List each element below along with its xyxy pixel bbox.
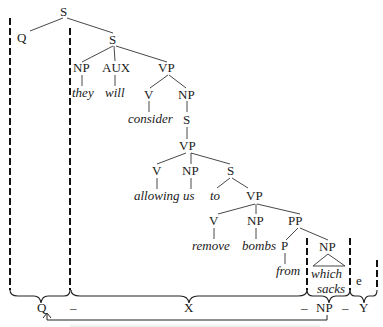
word-bombs: bombs (242, 238, 276, 253)
node-vp-1: VP (158, 60, 175, 75)
node-q: Q (17, 30, 27, 45)
analysis-dash-3: – (341, 300, 349, 315)
node-vp-3: VP (246, 188, 263, 203)
node-v-3: V (209, 213, 219, 228)
analysis-y: Y (359, 300, 369, 315)
empty-element-e: e (356, 273, 362, 288)
node-vp-2: VP (179, 138, 196, 153)
word-they: they (72, 85, 94, 100)
word-sacks: sacks (317, 281, 345, 296)
node-s: S (109, 32, 116, 47)
node-s-3: S (183, 112, 190, 127)
word-allowing: allowing (134, 188, 180, 203)
word-from: from (276, 263, 300, 278)
word-to: to (210, 188, 221, 203)
node-np-they: NP (73, 60, 90, 75)
figure-caption-clipped (70, 323, 320, 327)
node-v-1: V (144, 87, 154, 102)
node-p: P (281, 238, 288, 253)
node-np-1: NP (178, 87, 195, 102)
word-will: will (105, 85, 125, 100)
node-s-4: S (227, 163, 234, 178)
word-us: us (183, 188, 195, 203)
word-which: which (311, 266, 342, 281)
analysis-q: Q (37, 300, 47, 315)
tree-labels: S Q S NP they AUX will VP V consider NP … (17, 4, 362, 296)
analysis-np: NP (316, 300, 333, 315)
node-np-us: NP (182, 163, 199, 178)
node-np-wh: NP (319, 239, 336, 254)
node-v-2: V (152, 163, 162, 178)
node-aux: AUX (102, 60, 131, 75)
node-pp: PP (288, 213, 302, 228)
analysis-dash-1: – (69, 300, 77, 315)
analysis-dash-2: – (300, 300, 308, 315)
analysis-x: X (184, 300, 194, 315)
word-remove: remove (192, 238, 230, 253)
structural-analysis: Q – X – NP – Y (37, 300, 369, 315)
word-consider: consider (128, 111, 174, 126)
node-np-bombs: NP (247, 213, 264, 228)
node-s-root: S (60, 4, 67, 19)
syntax-tree-diagram: S Q S NP they AUX will VP V consider NP … (0, 0, 383, 327)
